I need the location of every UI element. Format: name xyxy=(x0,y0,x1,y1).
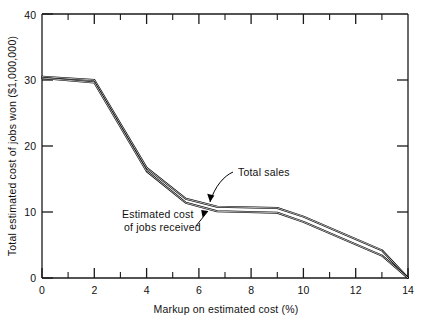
y-tick-label-30: 30 xyxy=(24,74,36,86)
estimated-cost-line-highlight xyxy=(42,78,408,278)
annotation-total-sales: Total sales xyxy=(207,166,290,202)
chart-figure: 0 10 20 30 40 0 2 4 6 8 10 12 14 Markup … xyxy=(0,0,431,322)
estimated-cost-annotation-label-line2: of jobs received xyxy=(124,221,201,233)
y-axis-major-ticks xyxy=(42,14,53,278)
x-tick-label-6: 6 xyxy=(196,284,202,296)
x-tick-label-12: 12 xyxy=(350,284,362,296)
x-tick-label-14: 14 xyxy=(402,284,414,296)
y-tick-label-10: 10 xyxy=(24,206,36,218)
estimated-cost-annotation-label-line1: Estimated cost xyxy=(122,208,194,220)
total-sales-leader-arrowhead xyxy=(207,194,214,202)
estimated-cost-line xyxy=(42,78,408,278)
x-tick-label-4: 4 xyxy=(144,284,150,296)
x-tick-label-10: 10 xyxy=(298,284,310,296)
series-estimated-cost xyxy=(42,78,408,278)
x-tick-label-2: 2 xyxy=(91,284,97,296)
y-axis-right-ticks xyxy=(397,80,408,212)
y-tick-label-20: 20 xyxy=(24,140,36,152)
total-sales-leader-line xyxy=(210,172,233,202)
x-axis-top-ticks xyxy=(68,14,382,24)
y-axis-title: Total estimated cost of jobs won ($1,000… xyxy=(6,36,18,256)
x-tick-label-0: 0 xyxy=(39,284,45,296)
y-tick-label-40: 40 xyxy=(24,9,36,21)
x-tick-labels: 0 2 4 6 8 10 12 14 xyxy=(39,284,414,296)
x-axis-minor-ticks xyxy=(68,272,382,278)
y-tick-label-0: 0 xyxy=(30,272,36,284)
total-sales-annotation-label: Total sales xyxy=(238,166,290,178)
line-chart-svg: 0 10 20 30 40 0 2 4 6 8 10 12 14 Markup … xyxy=(0,0,431,322)
annotation-estimated-cost: Estimated cost of jobs received xyxy=(122,208,208,233)
y-tick-labels: 0 10 20 30 40 xyxy=(24,9,36,284)
estimated-cost-leader-arrowhead xyxy=(201,210,208,217)
x-axis-title: Markup on estimated cost (%) xyxy=(153,303,298,315)
x-tick-label-8: 8 xyxy=(248,284,254,296)
